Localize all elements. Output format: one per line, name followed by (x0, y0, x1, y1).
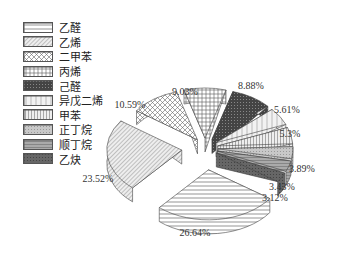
slice-value-label: 26.64% (180, 227, 211, 238)
legend-label: 乙炔 (59, 151, 81, 167)
legend-item: 甲苯 (23, 108, 103, 123)
slice-value-label: 23.52% (83, 173, 114, 184)
slice-value-label: 10.59% (115, 99, 146, 110)
legend-label: 甲苯 (59, 107, 81, 123)
legend-label: 正丁烷 (59, 121, 92, 137)
legend-label: 顺丁烷 (59, 136, 92, 152)
legend-label: 己醛 (59, 78, 81, 94)
slice-value-label: 3.43% (269, 181, 295, 192)
legend-item: 己醛 (23, 78, 103, 93)
legend-label: 异戊二烯 (59, 92, 103, 108)
legend-item: 正丁烷 (23, 122, 103, 137)
legend-swatch (23, 109, 53, 120)
legend-swatch (23, 22, 53, 33)
legend: 乙醛乙烯二甲苯丙烯己醛异戊二烯甲苯正丁烷顺丁烷乙炔 (23, 20, 103, 166)
legend-label: 乙烯 (59, 34, 81, 50)
slice-value-label: 5.61% (274, 104, 300, 115)
legend-item: 乙烯 (23, 35, 103, 50)
slice-value-label: 5.3% (280, 128, 301, 139)
slice-value-label: 8.88% (238, 80, 264, 91)
legend-swatch (23, 139, 53, 150)
legend-item: 丙烯 (23, 64, 103, 79)
slice-value-label: 9.03% (172, 86, 198, 97)
legend-swatch (23, 124, 53, 135)
legend-swatch (23, 153, 53, 164)
legend-item: 二甲苯 (23, 49, 103, 64)
legend-swatch (23, 51, 53, 62)
legend-swatch (23, 36, 53, 47)
legend-label: 丙烯 (59, 63, 81, 79)
legend-swatch (23, 80, 53, 91)
legend-swatch (23, 95, 53, 106)
legend-item: 乙醛 (23, 20, 103, 35)
legend-label: 二甲苯 (59, 48, 92, 64)
legend-item: 顺丁烷 (23, 137, 103, 152)
slice-value-label: 3.12% (262, 192, 288, 203)
legend-swatch (23, 66, 53, 77)
slice-value-label: 3.89% (289, 163, 315, 174)
legend-item: 乙炔 (23, 151, 103, 166)
legend-item: 异戊二烯 (23, 93, 103, 108)
legend-label: 乙醛 (59, 19, 81, 35)
